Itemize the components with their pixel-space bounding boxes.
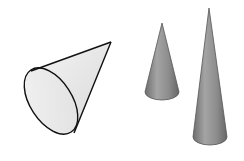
tall-upright-cone (193, 8, 227, 145)
cone-diagram (0, 0, 244, 161)
tilted-cone (13, 42, 111, 143)
short-upright-cone (145, 23, 179, 100)
cones-figure (0, 0, 244, 161)
